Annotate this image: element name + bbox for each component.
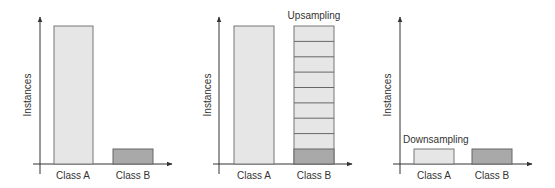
panel-original: Instances Class A Class B	[22, 17, 172, 181]
original-class-b-segment	[294, 149, 334, 164]
downsampling-label: Downsampling	[403, 134, 469, 145]
class-imbalance-diagram: Instances Class A Class B Upsampling Ins…	[0, 0, 555, 188]
y-axis-label: Instances	[22, 74, 33, 117]
y-axis-label: Instances	[202, 74, 213, 117]
bar-class-b	[113, 149, 153, 164]
x-label-class-b: Class B	[297, 170, 332, 181]
bar-class-b	[472, 149, 512, 164]
bar-class-a	[234, 26, 274, 164]
x-label-class-b: Class B	[475, 170, 510, 181]
x-label-class-a: Class A	[237, 170, 271, 181]
panel-upsampling: Upsampling Instances Class A Class B	[202, 10, 352, 181]
bar-class-b-upsampled	[294, 26, 334, 164]
panel-downsampling: Downsampling Instances Class A Class B	[382, 17, 532, 181]
x-label-class-a: Class A	[417, 170, 451, 181]
x-label-class-b: Class B	[116, 170, 151, 181]
bar-class-a	[414, 149, 454, 164]
y-axis-label: Instances	[382, 74, 393, 117]
bar-class-a	[54, 26, 93, 164]
upsampling-label: Upsampling	[288, 10, 341, 21]
x-label-class-a: Class A	[56, 170, 90, 181]
